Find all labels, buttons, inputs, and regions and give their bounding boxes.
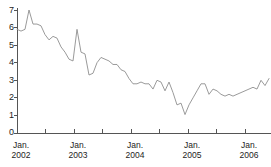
plot-area: [0, 0, 271, 167]
data-series-line: [17, 10, 269, 115]
x-axis-tick-marks: [46, 129, 246, 133]
line-chart: 7 6 5 4 3 2 1 0 Jan. 2002 Jan. 2003 Jan.…: [0, 0, 271, 167]
